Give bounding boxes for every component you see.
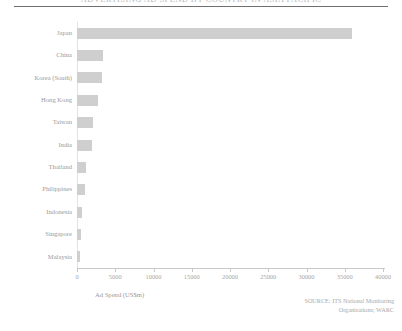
bar xyxy=(77,72,102,83)
bar xyxy=(77,28,352,39)
y-axis-tick-label: Korea (South) xyxy=(34,75,72,82)
y-axis-tick-label: Thailand xyxy=(49,164,72,171)
y-axis-tick-label: Singapore xyxy=(45,231,72,238)
source-line-1: SOURCE: ITS National Monitoring xyxy=(304,296,394,305)
x-axis-tick xyxy=(230,268,231,272)
bar-row: Japan xyxy=(77,22,383,44)
bar-row: Hong Kong xyxy=(77,89,383,111)
x-axis-tick-label: 5000 xyxy=(109,273,122,280)
bar xyxy=(77,140,92,151)
x-axis-tick-label: 40000 xyxy=(375,273,391,280)
y-axis-tick-label: India xyxy=(58,142,72,149)
x-axis-tick xyxy=(154,268,155,272)
bar-row: Thailand xyxy=(77,156,383,178)
y-axis-tick-label: Taiwan xyxy=(53,119,72,126)
y-axis-tick-label: Indonesia xyxy=(46,209,72,216)
x-axis-tick xyxy=(383,268,384,272)
x-axis-title: Ad Spend (US$m) xyxy=(95,291,144,298)
bar-row: China xyxy=(77,44,383,66)
bar xyxy=(77,184,85,195)
x-axis-tick-label: 25000 xyxy=(260,273,276,280)
chart-title: ADVERTISING AD SPEND BY COUNTRY IN ASIA … xyxy=(0,0,402,4)
bar xyxy=(77,95,98,106)
x-axis-tick xyxy=(345,268,346,272)
x-axis-tick xyxy=(268,268,269,272)
source-note: SOURCE: ITS National Monitoring Organisa… xyxy=(304,296,394,314)
bar-row: Korea (South) xyxy=(77,67,383,89)
chart-container: ADVERTISING AD SPEND BY COUNTRY IN ASIA … xyxy=(0,0,402,331)
x-axis-tick-label: 15000 xyxy=(184,273,200,280)
y-axis-tick-label: Japan xyxy=(57,30,72,37)
x-axis-tick xyxy=(192,268,193,272)
y-axis-tick-label: Malaysia xyxy=(48,254,72,261)
bar-row: Singapore xyxy=(77,223,383,245)
x-axis-tick xyxy=(77,268,78,272)
bar-row: Malaysia xyxy=(77,246,383,268)
bar xyxy=(77,50,103,61)
bar xyxy=(77,207,82,218)
title-divider xyxy=(14,6,388,7)
plot-area: JapanChinaKorea (South)Hong KongTaiwanIn… xyxy=(77,22,383,268)
bar xyxy=(77,162,86,173)
x-axis-tick-label: 0 xyxy=(75,273,78,280)
x-axis-tick-label: 30000 xyxy=(299,273,315,280)
bar-row: Philippines xyxy=(77,179,383,201)
y-axis-tick-label: Philippines xyxy=(42,186,72,193)
x-axis-tick-label: 20000 xyxy=(222,273,238,280)
bar-row: Taiwan xyxy=(77,111,383,133)
chart-title-clip: ADVERTISING AD SPEND BY COUNTRY IN ASIA … xyxy=(0,0,402,4)
y-axis-tick-label: China xyxy=(56,52,72,59)
source-line-2: Organisations; WARC xyxy=(304,305,394,314)
y-axis-tick-label: Hong Kong xyxy=(41,97,72,104)
bar-row: Indonesia xyxy=(77,201,383,223)
x-axis-tick xyxy=(307,268,308,272)
bar xyxy=(77,251,80,262)
bar xyxy=(77,229,81,240)
bar xyxy=(77,117,93,128)
x-axis-tick-label: 35000 xyxy=(337,273,353,280)
bar-row: India xyxy=(77,134,383,156)
x-axis-line xyxy=(77,268,385,269)
x-axis-tick-label: 10000 xyxy=(146,273,162,280)
x-axis-tick xyxy=(115,268,116,272)
